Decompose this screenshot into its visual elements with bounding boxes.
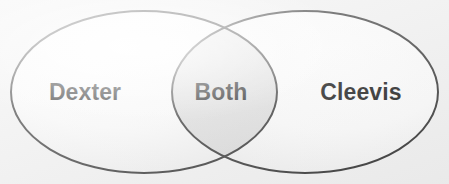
venn-label-left: Dexter xyxy=(49,81,121,104)
venn-diagram-figure: Dexter Both Cleevis xyxy=(0,0,449,184)
venn-label-right: Cleevis xyxy=(320,81,401,104)
venn-label-intersection: Both xyxy=(195,81,248,104)
